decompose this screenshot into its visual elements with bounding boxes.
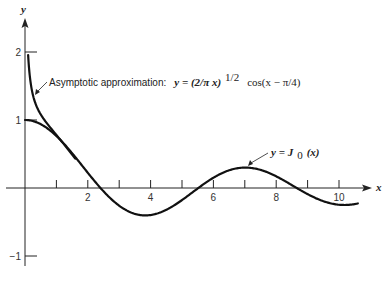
svg-text:y = J 0 (x): y = J 0 (x)	[269, 142, 319, 162]
x-tick-label: 2	[85, 192, 91, 203]
j0-annotation: y = J 0 (x)	[248, 142, 319, 166]
x-tick-label: 10	[333, 192, 345, 203]
j0-label-suffix: (x)	[307, 146, 320, 159]
annotation-superscript: 1/2	[225, 71, 239, 83]
x-tick-label: 6	[211, 192, 217, 203]
asymptotic-annotation: Asymptotic approximation: y = (2/π x) 1/…	[35, 67, 301, 95]
y-ticks: 21−1	[10, 47, 37, 262]
y-tick-label: −1	[10, 251, 22, 262]
axes	[6, 24, 368, 266]
y-axis-label: y	[19, 3, 26, 15]
bessel-function-chart: x y 246810 21−1 Asymptotic approximation…	[0, 0, 386, 290]
annotation-cos: cos(x − π/4)	[247, 76, 301, 89]
x-axis-label: x	[375, 181, 382, 193]
annotation-pointer	[37, 82, 47, 92]
j0-label-main: y = J	[269, 146, 294, 158]
j0-annotation-arrowhead-icon	[248, 160, 253, 166]
x-tick-label: 8	[273, 192, 279, 203]
y-tick-label: 2	[15, 47, 21, 58]
j0-annotation-pointer	[251, 153, 268, 163]
svg-text:Asymptotic approximation:: Asymptotic approximation: y = (2/π x) 1/…	[49, 67, 301, 89]
y-tick-label: 1	[15, 115, 21, 126]
x-tick-label: 4	[148, 192, 154, 203]
annotation-math: y = (2/π x)	[172, 76, 221, 89]
annotation-prefix: Asymptotic approximation:	[49, 77, 166, 88]
bessel-j0-curve	[25, 120, 358, 215]
asymptotic-approximation-curve	[28, 55, 75, 158]
j0-label-subscript: 0	[297, 149, 303, 161]
